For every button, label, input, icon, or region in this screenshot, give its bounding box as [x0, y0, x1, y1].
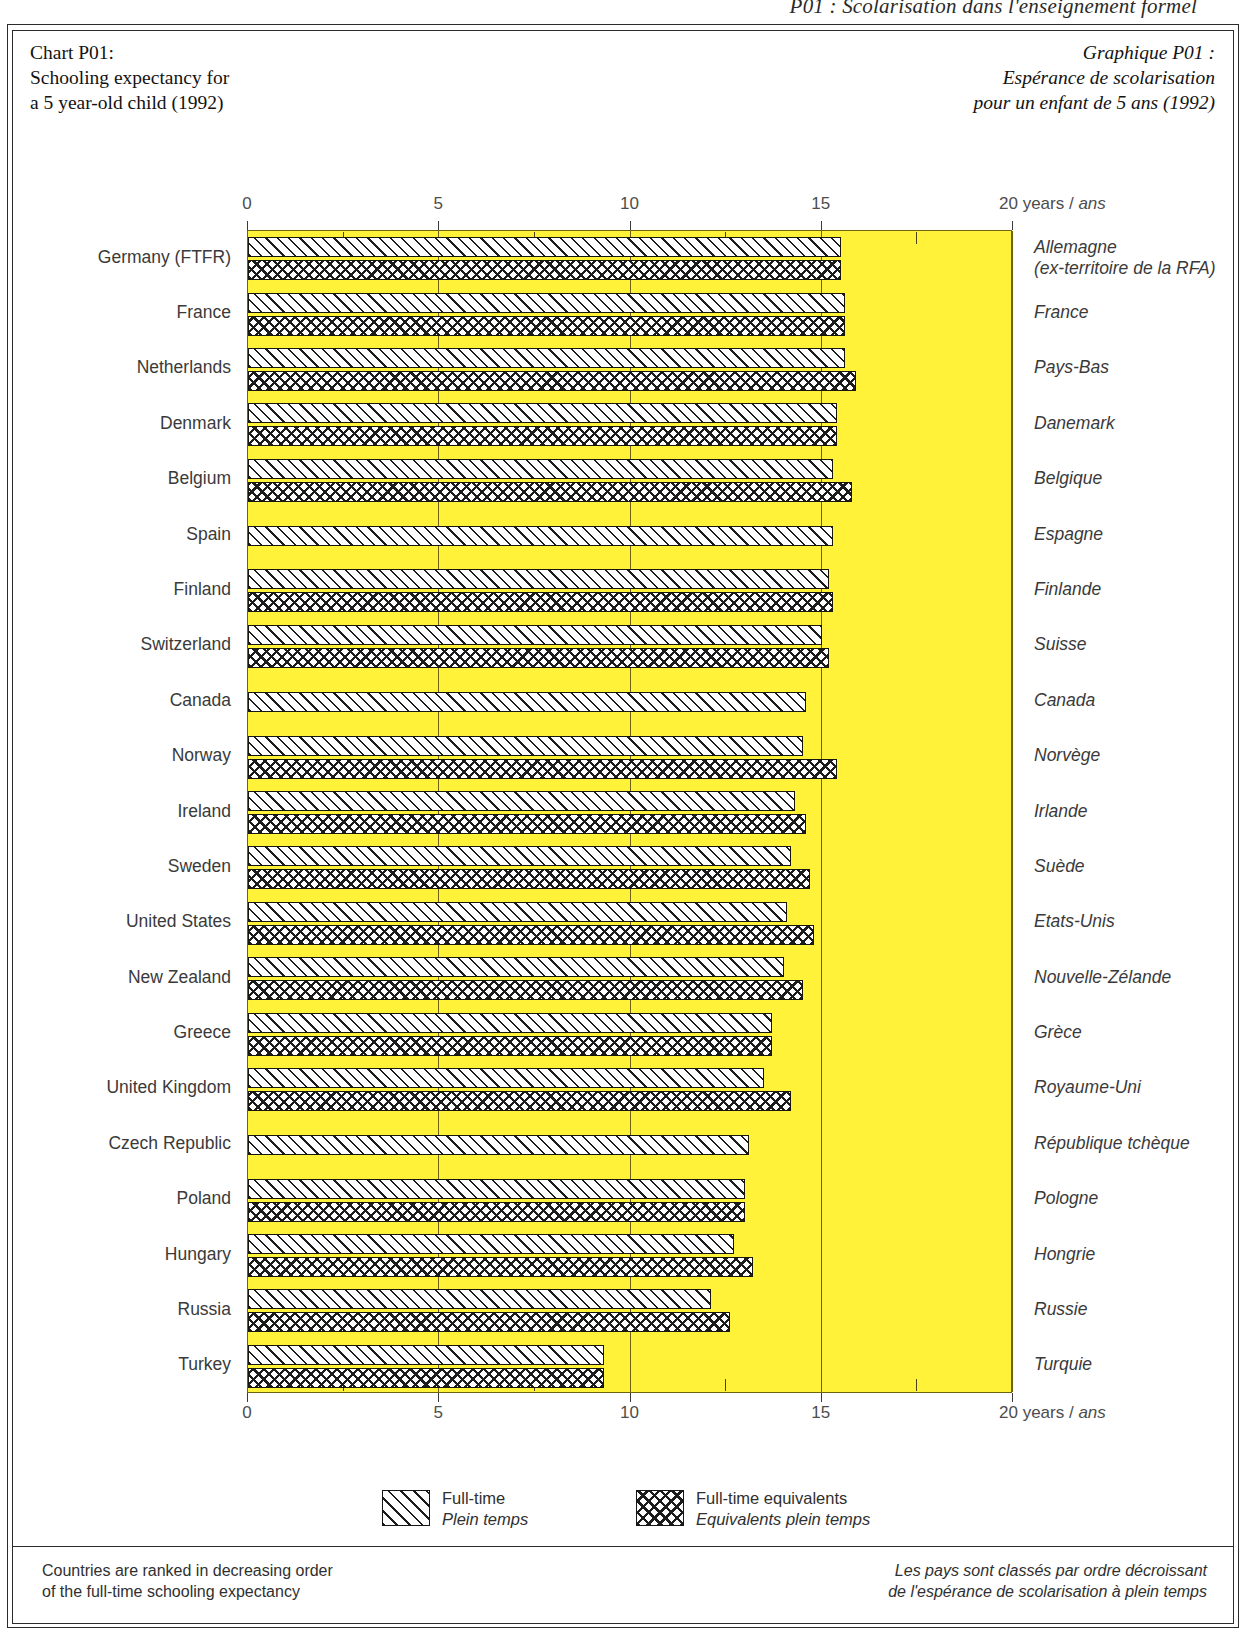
category-label-en-17: Czech Republic: [0, 1133, 231, 1154]
bar-full-time-equivalent: [248, 925, 814, 945]
x-tick-label-years-en: 20 years /: [999, 1403, 1078, 1422]
bar-full-time: [248, 902, 787, 922]
category-label-fr-2: France: [1034, 302, 1249, 323]
category-label-fr-line-1: Belgique: [1034, 468, 1249, 489]
category-label-en-9: Canada: [0, 690, 231, 711]
category-label-en-text: Netherlands: [137, 357, 231, 377]
category-label-en-text: Hungary: [165, 1244, 231, 1264]
category-label-en-3: Netherlands: [0, 357, 231, 378]
category-label-en-text: Turkey: [178, 1354, 231, 1374]
legend-label-full-time: Full-time Plein temps: [442, 1488, 528, 1530]
axis-minor-tick: [725, 1379, 726, 1391]
bar-full-time-equivalent: [248, 1257, 753, 1277]
category-label-fr-line-1: Finlande: [1034, 579, 1249, 600]
footnote-english: Countries are ranked in decreasing order…: [42, 1560, 333, 1602]
category-label-fr-line-1: Irlande: [1034, 801, 1249, 822]
axis-tick-20: [1012, 221, 1013, 230]
bar-full-time: [248, 1135, 749, 1155]
bar-full-time: [248, 1013, 772, 1033]
bar-full-time: [248, 692, 806, 712]
bar-full-time: [248, 1179, 745, 1199]
bar-full-time: [248, 459, 833, 479]
bar-full-time-equivalent: [248, 648, 829, 668]
title-en-line-2: Schooling expectancy for: [30, 65, 229, 90]
axis-tick-10: [630, 1393, 631, 1402]
chart-title-english: Chart P01: Schooling expectancy for a 5 …: [30, 40, 229, 115]
category-label-en-text: Spain: [186, 524, 231, 544]
category-label-fr-19: Hongrie: [1034, 1244, 1249, 1265]
running-head: P01 : Scolarisation dans l'enseignement …: [0, 0, 1249, 20]
category-label-en-text: Sweden: [168, 856, 231, 876]
category-label-en-text: Germany (FTFR): [98, 247, 231, 267]
axis-tick-0: [247, 221, 248, 230]
category-label-en-text: Belgium: [168, 468, 231, 488]
bar-full-time-equivalent: [248, 1368, 604, 1388]
category-label-en-text: United Kingdom: [106, 1077, 231, 1097]
category-label-fr-line-1: Suède: [1034, 856, 1249, 877]
category-label-fr-line-1: Grèce: [1034, 1022, 1249, 1043]
title-fr-line-2: Espérance de scolarisation: [973, 65, 1215, 90]
category-label-en-text: Greece: [174, 1022, 231, 1042]
legend-swatch-full-time-icon: [382, 1490, 430, 1526]
category-label-fr-7: Finlande: [1034, 579, 1249, 600]
category-label-en-text: Canada: [170, 690, 231, 710]
category-label-en-text: Norway: [172, 745, 231, 765]
category-label-en-10: Norway: [0, 745, 231, 766]
category-label-en-text: Poland: [177, 1188, 232, 1208]
x-tick-label-0: 0: [242, 1403, 251, 1423]
legend-label-full-time-fr: Plein temps: [442, 1509, 528, 1530]
bar-full-time-equivalent: [248, 814, 806, 834]
category-label-en-4: Denmark: [0, 413, 231, 434]
x-tick-label-15: 15: [811, 1403, 830, 1423]
category-label-en-text: Denmark: [160, 413, 231, 433]
title-fr-line-1: Graphique P01 :: [973, 40, 1215, 65]
title-en-line-1: Chart P01:: [30, 40, 229, 65]
category-label-fr-1: Allemagne(ex-territoire de la RFA): [1034, 237, 1249, 279]
category-label-fr-line-1: Hongrie: [1034, 1244, 1249, 1265]
category-label-en-text: Finland: [174, 579, 231, 599]
axis-minor-tick: [916, 1379, 917, 1391]
category-label-fr-21: Turquie: [1034, 1354, 1249, 1375]
x-axis-labels-bottom: 05101520 years / ans: [0, 1403, 1249, 1423]
category-label-en-text: France: [177, 302, 231, 322]
category-label-en-6: Spain: [0, 524, 231, 545]
category-label-fr-12: Suède: [1034, 856, 1249, 877]
axis-tick-20: [1012, 1393, 1013, 1402]
x-tick-label-5: 5: [434, 1403, 443, 1423]
category-label-fr-line-1: Pologne: [1034, 1188, 1249, 1209]
axis-tick-0: [247, 1393, 248, 1402]
x-tick-label-20-years: 20 years / ans: [999, 1403, 1106, 1423]
bar-full-time-equivalent: [248, 592, 833, 612]
category-label-fr-5: Belgique: [1034, 468, 1249, 489]
bar-full-time-equivalent: [248, 759, 837, 779]
bar-full-time-equivalent: [248, 1202, 745, 1222]
axis-tick-5: [438, 221, 439, 230]
axis-tick-15: [821, 221, 822, 230]
x-tick-label-5: 5: [434, 194, 443, 214]
category-label-fr-line-1: Norvège: [1034, 745, 1249, 766]
category-label-en-8: Switzerland: [0, 634, 231, 655]
legend-label-fte-en: Full-time equivalents: [696, 1488, 870, 1509]
bar-full-time: [248, 293, 845, 313]
category-label-fr-16: Royaume-Uni: [1034, 1077, 1249, 1098]
bar-full-time: [248, 846, 791, 866]
category-label-en-19: Hungary: [0, 1244, 231, 1265]
axis-tick-15: [821, 1393, 822, 1402]
category-label-en-13: United States: [0, 911, 231, 932]
x-axis-labels-top: 05101520 years / ans: [0, 194, 1249, 214]
category-label-fr-14: Nouvelle-Zélande: [1034, 967, 1249, 988]
category-label-fr-15: Grèce: [1034, 1022, 1249, 1043]
footnote-fr-line-2: de l'espérance de scolarisation à plein …: [888, 1581, 1207, 1602]
bar-full-time: [248, 791, 795, 811]
axis-tick-10: [630, 221, 631, 230]
category-label-en-16: United Kingdom: [0, 1077, 231, 1098]
category-label-fr-3: Pays-Bas: [1034, 357, 1249, 378]
category-label-fr-17: République tchèque: [1034, 1133, 1249, 1154]
bar-full-time: [248, 1289, 711, 1309]
category-label-fr-13: Etats-Unis: [1034, 911, 1249, 932]
bar-full-time: [248, 237, 841, 257]
bar-full-time-equivalent: [248, 1091, 791, 1111]
bar-full-time-equivalent: [248, 1036, 772, 1056]
category-label-en-14: New Zealand: [0, 967, 231, 988]
bar-full-time-equivalent: [248, 980, 803, 1000]
